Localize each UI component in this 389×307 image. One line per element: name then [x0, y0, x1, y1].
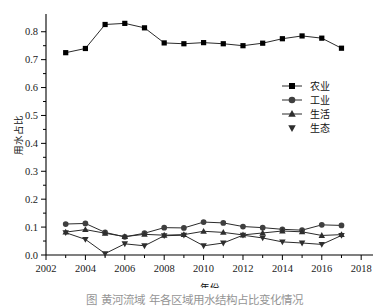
data-point-农业 — [162, 40, 167, 45]
x-tick-label: 2010 — [193, 263, 214, 274]
data-point-农业 — [221, 41, 226, 46]
legend-label-生活: 生活 — [310, 108, 330, 120]
data-point-工业 — [201, 219, 207, 225]
data-point-农业 — [122, 21, 127, 26]
legend-label-工业: 工业 — [310, 95, 330, 106]
data-point-工业 — [220, 220, 226, 226]
data-point-农业 — [280, 36, 285, 41]
data-point-农业 — [83, 46, 88, 51]
data-point-工业 — [319, 222, 325, 228]
data-point-农业 — [63, 50, 68, 55]
y-tick-label: 0.6 — [25, 82, 38, 93]
data-point-工业 — [63, 221, 69, 227]
y-tick-label: 0.8 — [25, 26, 38, 37]
data-point-生态 — [141, 243, 148, 249]
legend-marker-生态 — [288, 125, 296, 132]
legend-label-农业: 农业 — [310, 80, 330, 92]
data-point-生态 — [82, 237, 89, 243]
x-tick-label: 2016 — [311, 263, 332, 274]
water-use-structure-line-chart: 0.00.10.20.30.40.50.60.70.82002200420062… — [0, 0, 389, 288]
x-tick-label: 2018 — [351, 263, 372, 274]
y-tick-label: 0.3 — [25, 166, 38, 177]
x-axis-title: 年份 — [200, 282, 220, 288]
data-point-生态 — [319, 242, 326, 248]
data-point-生活 — [200, 228, 207, 234]
data-point-农业 — [299, 33, 304, 38]
data-point-农业 — [339, 46, 344, 51]
x-tick-label: 2002 — [36, 263, 57, 274]
legend-label-生态: 生态 — [310, 122, 330, 134]
data-point-工业 — [339, 223, 345, 229]
y-tick-label: 0.4 — [25, 138, 39, 149]
legend-marker-农业 — [289, 83, 295, 89]
figure-caption: 图 黄河流域 年各区域用水结构占比变化情况 — [0, 291, 389, 307]
y-tick-label: 0.0 — [25, 250, 38, 261]
series-line-生态 — [66, 233, 342, 254]
data-point-农业 — [102, 22, 107, 27]
x-tick-label: 2008 — [154, 263, 175, 274]
y-tick-label: 0.7 — [25, 54, 38, 65]
data-point-农业 — [260, 41, 265, 46]
legend-marker-生活 — [288, 110, 296, 117]
x-tick-label: 2012 — [232, 263, 253, 274]
y-tick-label: 0.5 — [25, 110, 38, 121]
x-tick-label: 2014 — [272, 263, 294, 274]
data-point-农业 — [201, 40, 206, 45]
data-point-生态 — [102, 251, 109, 257]
data-point-工业 — [181, 225, 187, 231]
data-point-工业 — [83, 221, 89, 227]
y-tick-label: 0.1 — [25, 222, 38, 233]
y-tick-label: 0.2 — [25, 194, 38, 205]
x-tick-label: 2004 — [75, 263, 97, 274]
data-point-工业 — [161, 225, 167, 231]
data-point-工业 — [240, 224, 246, 230]
legend-marker-工业 — [289, 97, 296, 104]
data-point-生活 — [82, 226, 89, 232]
data-point-农业 — [319, 36, 324, 41]
data-point-农业 — [181, 41, 186, 46]
data-point-农业 — [240, 43, 245, 48]
data-point-生态 — [200, 243, 207, 249]
x-tick-label: 2006 — [114, 263, 135, 274]
data-point-农业 — [142, 25, 147, 30]
y-axis-title: 用水占比 — [13, 115, 24, 155]
